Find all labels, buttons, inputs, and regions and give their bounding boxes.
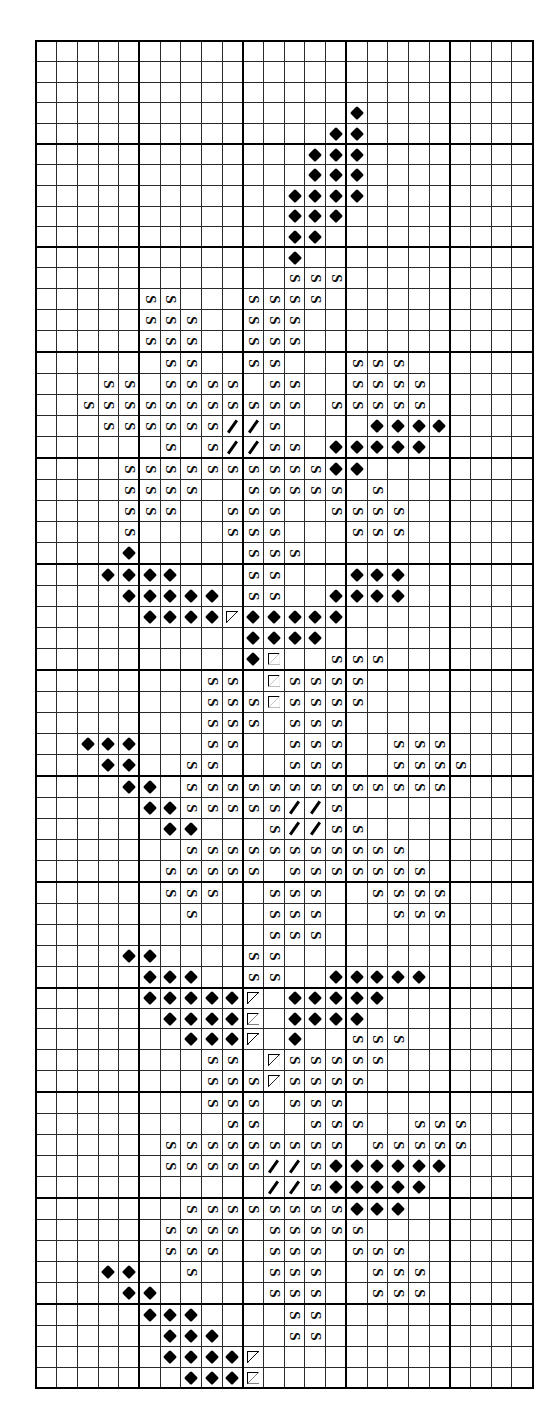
empty-cell [367, 62, 388, 83]
diamond-symbol [181, 966, 202, 988]
empty-cell [181, 1177, 202, 1199]
empty-cell [512, 437, 533, 459]
diamond-symbol [284, 206, 305, 227]
empty-cell [367, 82, 388, 103]
diamond-symbol [284, 628, 305, 649]
empty-cell [181, 165, 202, 186]
empty-cell [57, 1177, 78, 1199]
s-glyph: S [244, 522, 263, 542]
empty-cell [139, 1198, 160, 1220]
s-symbol: S [222, 1198, 243, 1220]
empty-cell [202, 82, 223, 103]
empty-cell [305, 103, 326, 124]
s-glyph: S [181, 755, 201, 775]
s-glyph: S [326, 798, 345, 818]
empty-cell [77, 797, 98, 818]
diamond-symbol-glyph [305, 989, 325, 1008]
s-glyph: S [326, 268, 345, 288]
diamond-symbol [408, 437, 429, 459]
s-symbol: S [264, 818, 285, 839]
empty-cell [450, 945, 471, 966]
stitch-row: SSSSSSSSSS [36, 458, 533, 480]
s-glyph: S [305, 1220, 325, 1240]
empty-cell [388, 247, 409, 268]
s-glyph: S [223, 713, 242, 733]
s-glyph: S [285, 692, 305, 712]
empty-cell [450, 839, 471, 860]
diamond-symbol-glyph [161, 819, 181, 839]
empty-cell [222, 41, 243, 62]
empty-cell [284, 586, 305, 607]
empty-cell [98, 1092, 119, 1114]
empty-cell [98, 1198, 119, 1220]
s-symbol: S [408, 1135, 429, 1156]
s-symbol: S [367, 501, 388, 522]
empty-cell [98, 82, 119, 103]
slash-symbol-glyph [285, 819, 305, 839]
s-glyph: S [326, 777, 345, 797]
empty-cell [57, 144, 78, 165]
s-symbol: S [264, 882, 285, 904]
s-symbol: S [284, 733, 305, 754]
s-glyph: S [119, 416, 138, 436]
stitch-row: SSSS [36, 437, 533, 459]
s-symbol: S [367, 1135, 388, 1156]
diamond-symbol-glyph [326, 145, 345, 164]
s-symbol: S [367, 1029, 388, 1050]
s-glyph: S [181, 1262, 201, 1282]
s-glyph: S [326, 501, 345, 521]
s-symbol: S [388, 860, 409, 882]
s-glyph: S [305, 734, 325, 754]
empty-cell [36, 882, 57, 904]
s-symbol: S [243, 331, 264, 353]
s-symbol: S [305, 1092, 326, 1114]
s-glyph: S [161, 1156, 181, 1176]
empty-cell [326, 903, 347, 924]
s-symbol: S [326, 776, 347, 798]
empty-cell [202, 165, 223, 186]
empty-cell [470, 331, 491, 353]
empty-cell [429, 1050, 450, 1071]
empty-cell [139, 103, 160, 124]
empty-cell [326, 289, 347, 310]
s-glyph: S [388, 1135, 408, 1155]
s-symbol: S [160, 458, 181, 480]
diamond-symbol-glyph [326, 124, 345, 143]
diamond-symbol-glyph [223, 1368, 242, 1387]
empty-cell [222, 1326, 243, 1347]
empty-cell [139, 1368, 160, 1389]
empty-cell [408, 1304, 429, 1326]
empty-cell [98, 1156, 119, 1177]
diamond-symbol [139, 988, 160, 1009]
empty-cell [491, 586, 512, 607]
stitch-row [36, 227, 533, 248]
s-glyph: S [388, 861, 408, 881]
diamond-symbol-glyph [161, 607, 181, 627]
s-glyph: S [264, 777, 284, 797]
empty-cell [284, 1347, 305, 1368]
empty-cell [36, 310, 57, 331]
empty-cell [202, 268, 223, 289]
empty-cell [470, 374, 491, 395]
empty-cell [367, 924, 388, 945]
diamond-symbol [326, 437, 347, 459]
empty-cell [119, 103, 140, 124]
s-glyph: S [285, 1071, 305, 1091]
empty-cell [470, 1050, 491, 1071]
diamond-symbol [388, 1198, 409, 1220]
empty-cell [388, 1050, 409, 1071]
empty-cell [119, 1326, 140, 1347]
empty-cell [264, 1368, 285, 1389]
empty-cell [388, 458, 409, 480]
empty-cell [429, 185, 450, 206]
empty-cell [202, 247, 223, 268]
diamond-symbol [305, 1008, 326, 1029]
empty-cell [429, 247, 450, 268]
empty-cell [470, 543, 491, 565]
empty-cell [512, 818, 533, 839]
empty-cell [77, 754, 98, 776]
s-glyph: S [99, 395, 119, 415]
empty-cell [119, 1304, 140, 1326]
empty-cell [181, 945, 202, 966]
empty-cell [284, 165, 305, 186]
